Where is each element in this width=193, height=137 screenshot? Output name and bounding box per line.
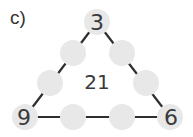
blank-circle[interactable] [60,40,86,66]
blank-circle[interactable] [109,40,135,66]
corner-value-bottom-left: 9 [17,105,31,130]
corner-value-top: 3 [90,10,104,35]
triangle-diagram: 3 9 6 21 [0,0,193,137]
blank-circle[interactable] [60,104,86,130]
blank-circle[interactable] [133,70,159,96]
corner-value-bottom-right: 6 [164,105,178,130]
blank-circle[interactable] [37,70,63,96]
center-sum: 21 [84,70,109,94]
blank-circle[interactable] [109,104,135,130]
